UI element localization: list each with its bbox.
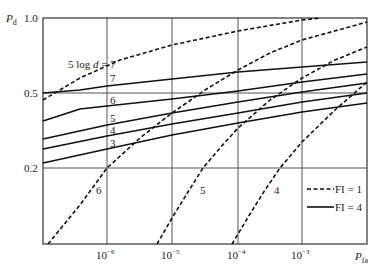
legend-fi4: FI = 4 — [335, 201, 362, 213]
legend: FI = 1 FI = 4 — [307, 183, 362, 213]
x-tick-1e-4: 10−4 — [227, 248, 246, 261]
x-tick-1e-6: 10−6 — [96, 248, 115, 261]
x-tick-1e-3: 10−3 — [291, 248, 310, 261]
solid-label-5: 5 — [110, 112, 116, 124]
y-axis-label: Pd — [5, 12, 17, 27]
dashed-label-4: 4 — [274, 184, 280, 196]
chart: Pd 1.0 0.5 0.2 10−6 10−5 10−4 10−3 Pfa 5… — [0, 0, 390, 270]
solid-label-7: 7 — [110, 72, 116, 84]
svg-text:10−3: 10−3 — [291, 248, 310, 261]
solid-label-4: 4 — [110, 124, 116, 136]
solid-curve-3 — [43, 103, 367, 163]
x-tick-1e-5: 10−5 — [161, 248, 180, 261]
legend-fi1: FI = 1 — [335, 183, 362, 195]
solid-curve-5 — [43, 83, 367, 139]
gridlines — [43, 18, 367, 244]
dashed-curve-6 — [48, 22, 367, 244]
solid-curve-4 — [43, 93, 367, 149]
svg-text:10−6: 10−6 — [96, 248, 115, 261]
plot-frame — [43, 18, 367, 244]
y-tick-1: 1.0 — [24, 12, 38, 24]
solid-curve-6 — [43, 74, 367, 121]
annotation-5logd: 5 log d = 7 — [68, 58, 116, 70]
y-tick-0.5: 0.5 — [24, 87, 38, 99]
dashed-label-5: 5 — [200, 184, 206, 196]
y-tick-0.2: 0.2 — [24, 162, 38, 174]
svg-text:10−4: 10−4 — [227, 248, 246, 261]
series-layer — [43, 18, 367, 244]
x-axis-label: Pfa — [354, 250, 368, 265]
solid-label-6: 6 — [110, 94, 116, 106]
svg-text:10−5: 10−5 — [161, 248, 180, 261]
dashed-label-6: 6 — [96, 184, 102, 196]
solid-label-3: 3 — [110, 137, 116, 149]
